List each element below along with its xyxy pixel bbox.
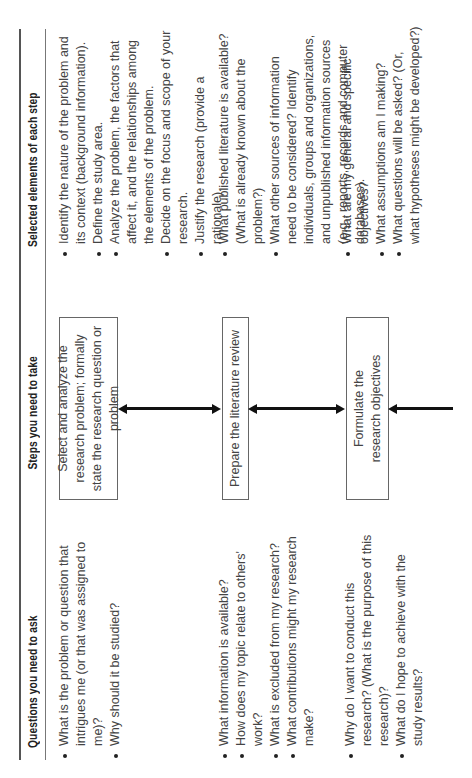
column-header-steps: Steps you need to take xyxy=(26,356,40,469)
bullet-icon xyxy=(223,754,227,758)
bullet-icon xyxy=(97,252,101,256)
bullet-icon xyxy=(114,754,118,758)
bullet-icon xyxy=(165,252,169,256)
step-label: Formulate the research objectives xyxy=(351,354,385,464)
bullet-icon xyxy=(349,754,353,758)
bullet-icon xyxy=(291,754,295,758)
row1-elements-list: Identify the nature of the problem and i… xyxy=(56,26,226,258)
bullet-icon xyxy=(63,754,67,758)
step-box-literature-review: Prepare the literature review xyxy=(222,317,249,500)
step-label: Prepare the literature review xyxy=(227,330,244,487)
bullet-icon xyxy=(274,754,278,758)
arrowhead-up-icon xyxy=(388,404,397,414)
arrowhead-up-icon xyxy=(248,404,257,414)
bullet-icon xyxy=(199,252,203,256)
list-item: Identify the nature of the problem and i… xyxy=(56,26,90,258)
double-arrow-icon xyxy=(255,407,338,410)
list-item: What are my general and specific objecti… xyxy=(339,26,373,258)
list-item: How does my topic relate to others' work… xyxy=(233,530,267,760)
column-header-questions: Questions you need to ask xyxy=(26,616,40,748)
arrow-up-icon xyxy=(395,407,453,410)
step-box-select-problem: Select and analyze the research problem;… xyxy=(59,317,118,500)
list-item: What published literature is available? … xyxy=(216,26,267,258)
bullet-icon xyxy=(223,252,227,256)
bullet-icon xyxy=(346,252,350,256)
list-item: What is the problem or question that int… xyxy=(56,530,107,760)
bullet-icon xyxy=(397,252,401,256)
bullet-icon xyxy=(274,252,278,256)
list-item: Decide on the focus and scope of your re… xyxy=(158,26,192,258)
rotated-table-page: Questions you need to ask Steps you need… xyxy=(0,0,472,778)
list-item: What contributions might my research mak… xyxy=(284,530,318,760)
bullet-icon xyxy=(400,754,404,758)
table-header-rule xyxy=(45,29,46,760)
step-label: Select and analyze the research problem;… xyxy=(55,324,123,493)
bullet-icon xyxy=(63,252,67,256)
list-item: What assumptions am I making? xyxy=(373,26,390,258)
row3-elements-list: What are my general and specific objecti… xyxy=(339,26,424,258)
row2-questions-list: What information is available? How does … xyxy=(216,530,318,760)
list-item: Why should it be studied? xyxy=(107,530,124,760)
arrowhead-down-icon xyxy=(336,404,345,414)
bullet-icon xyxy=(240,754,244,758)
list-item: What do I hope to achieve with the study… xyxy=(393,530,427,760)
arrowhead-up-icon xyxy=(118,404,127,414)
column-header-elements: Selected elements of each step xyxy=(26,92,40,247)
row1-questions-list: What is the problem or question that int… xyxy=(56,530,124,760)
row3-questions-list: Why do I want to conduct this research? … xyxy=(342,530,427,760)
double-arrow-icon xyxy=(125,407,214,410)
arrowhead-down-icon xyxy=(212,404,221,414)
list-item: Analyze the problem, the factors that af… xyxy=(107,26,158,258)
list-item: What information is available? xyxy=(216,530,233,760)
bullet-icon xyxy=(380,252,384,256)
list-item: Define the study area. xyxy=(90,26,107,258)
list-item: What is excluded from my research? xyxy=(267,530,284,760)
table-top-rule xyxy=(19,29,21,760)
list-item: What questions will be asked? (Or, what … xyxy=(390,26,424,258)
list-item: Why do I want to conduct this research? … xyxy=(342,530,393,760)
bullet-icon xyxy=(114,252,118,256)
step-box-research-objectives: Formulate the research objectives xyxy=(346,317,389,500)
